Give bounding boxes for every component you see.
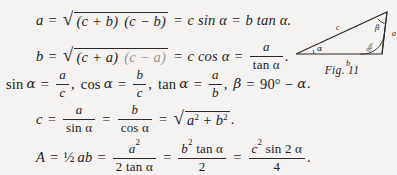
fraction-denominator: 2 [196,160,209,175]
eq-b-lhs: b [36,49,43,64]
numerator-base: c [252,141,258,156]
fraction-a-over-c: a c [56,68,69,100]
period: . [307,150,311,165]
fraction-denominator: sin α [63,121,95,136]
equals-sign-3: = [227,13,245,28]
exponent-two: 2 [258,137,263,147]
fraction-numerator: c2 sin 2 α [249,140,306,157]
comma: , [148,77,152,92]
equation-a: a = √ (c + b) (c − b) = c sin α = b tan … [36,12,291,29]
radical-icon: √ [173,110,185,127]
fraction-numerator: a [56,68,69,83]
fraction-numerator: b [129,103,142,118]
numerator-tail: tan α [196,141,223,156]
fraction-b-over-cos-alpha: b cos α [118,103,152,135]
tan-label: tan [158,77,176,92]
sin-label: sin [6,77,24,92]
period: . [231,112,235,127]
equals-sign-4: = [228,150,246,165]
fraction-denominator: cos α [118,121,152,136]
fraction-denominator: 2 tan α [113,160,156,175]
radical-icon: √ [63,11,75,28]
exponent-two: 2 [195,113,200,122]
equals-sign-4: = [242,77,260,92]
figure-caption: Fig. 11 [292,64,392,76]
equals-sign: = [43,112,61,127]
radicand: (c + b) (c − b) [74,12,168,29]
label-hypotenuse-c: c [336,23,340,32]
radical-group: √ a2 + b2 [173,111,229,128]
exponent-two: 2 [135,137,140,147]
radical-group: √ (c + b) (c − b) [63,12,168,29]
equals-sign-2: = [169,49,187,64]
eq-b-rhs-2: c cos α [187,49,229,64]
period: . [285,49,289,64]
exponent-two: 2 [188,137,193,147]
equals-sign: = [43,49,61,64]
beta-value: 90° [260,77,281,92]
eq-area-lhs: A [36,150,45,165]
equals-sign-2: = [113,77,131,92]
fraction-asq-over-2tan-alpha: a2 2 tan α [113,140,156,174]
equals-sign: = [36,77,54,92]
beta-symbol: β [234,77,242,91]
equals-sign-3: = [229,49,247,64]
eq-b-radicand-right: (c − a) [124,50,166,65]
radicand: a2 + b2 [185,111,230,128]
eq-a-radicand-left: (c + b) [76,14,118,29]
eq-a-rhs-3: b tan α. [245,13,291,28]
equals-sign: = [43,13,61,28]
fraction-a-over-b: a b [209,68,222,100]
triangle-diagram: c b a α β 90° [292,6,397,68]
alpha-symbol: α [104,77,113,91]
eq-area-ab: ab [78,150,93,165]
alpha-symbol: α [179,77,188,91]
equals-sign-2: = [92,150,110,165]
equals-sign: = [45,150,63,165]
fraction-numerator: a [73,103,86,118]
equation-c: c = a sin α = b cos α = √ a2 + b2 . [36,103,235,135]
side-a-line [382,12,387,54]
fraction-numerator: a [260,40,273,55]
cos-label: cos [81,77,101,92]
eq-c-rad-b: b [216,113,223,128]
equation-ratios: sin α = a c , cos α = b c , tan α = a b … [6,68,311,100]
comma: , [71,77,75,92]
equals-sign-3: = [154,112,172,127]
fraction-numerator: b [133,68,146,83]
eq-a-lhs: a [36,13,43,28]
label-side-a: a [392,29,396,38]
fraction-numerator: b2 tan α [178,140,226,157]
angle-alpha-arc [313,50,314,54]
equals-sign-2: = [169,13,187,28]
plus-sign: + [199,113,215,128]
numerator-base: b [181,141,188,156]
equals-sign-2: = [97,112,115,127]
fraction-denominator: c [134,86,146,101]
fraction-denominator: 4 [270,160,283,175]
exponent-two: 2 [223,113,228,122]
fraction-denominator: c [57,86,69,101]
equation-area: A = ½ ab = a2 2 tan α = b2 tan α 2 = c2 … [36,140,311,174]
eq-c-lhs: c [36,112,43,127]
fraction-denominator: b [209,86,222,101]
numerator-tail: sin 2 α [266,141,302,156]
equals-sign-3: = [189,77,207,92]
scanned-page: a = √ (c + b) (c − b) = c sin α = b tan … [0,0,397,175]
equals-sign-3: = [158,150,176,165]
comma: , [224,77,228,92]
eq-a-radicand-right: (c − b) [124,14,166,29]
radical-icon: √ [63,47,75,64]
fraction-b-over-c: b c [133,68,146,100]
eq-a-rhs-2: c sin α [187,13,227,28]
fraction-a-over-sin-alpha: a sin α [63,103,95,135]
fraction-numerator: a [209,68,222,83]
one-half: ½ [63,150,74,165]
label-angle-alpha: α [317,44,323,53]
label-angle-beta: β [374,23,380,32]
fraction-bsq-tan-alpha-over-2: b2 tan α 2 [178,140,226,174]
radicand: (c + a) (c − a) [74,48,168,65]
fraction-numerator: a2 [126,140,143,157]
eq-c-rad-a: a [187,113,194,128]
radical-group: √ (c + a) (c − a) [63,48,168,65]
